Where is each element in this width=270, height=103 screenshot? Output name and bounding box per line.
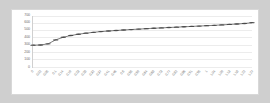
x-axis-tick-label: 1.13	[225, 70, 232, 77]
data-point-marker	[189, 25, 195, 26]
data-point-marker	[91, 31, 97, 32]
data-point-marker	[166, 26, 172, 27]
x-axis-tick-label: 0.59	[134, 70, 141, 77]
x-axis-tick-label: 0.28	[81, 70, 88, 77]
x-axis-tick-label: 1.27	[248, 70, 255, 77]
data-point-marker	[38, 44, 44, 45]
x-axis-tick-label: 0.19	[66, 70, 73, 77]
y-axis-tick-label: 100	[24, 58, 30, 62]
data-point-marker	[219, 24, 225, 25]
y-axis: 0100200300400500600700	[12, 16, 32, 68]
data-point-marker	[30, 44, 36, 45]
x-axis-tick-label: 0.32	[89, 70, 96, 77]
x-axis-tick-label: 0.14	[59, 70, 66, 77]
x-axis-tick-label: 0.23	[74, 70, 81, 77]
x-axis-tick-label: 0.77	[165, 70, 172, 77]
y-axis-tick-label: 600	[24, 21, 30, 25]
y-axis-tick-label: 300	[24, 43, 30, 47]
data-point-marker	[128, 28, 134, 29]
x-axis-tick-label: 1.04	[210, 70, 217, 77]
plot-region	[32, 16, 252, 68]
x-axis-tick-label: 0.41	[104, 70, 111, 77]
data-point-marker	[45, 43, 51, 44]
data-point-marker	[60, 36, 66, 37]
series-line	[33, 22, 252, 44]
data-point-marker	[53, 39, 59, 40]
plot-area	[32, 16, 252, 68]
data-point-marker	[68, 34, 74, 35]
x-axis: 00.020.050.10.140.190.230.280.320.370.41…	[32, 68, 252, 94]
data-point-marker	[226, 23, 232, 24]
x-axis-tick-label: 0.64	[142, 70, 149, 77]
x-axis-tick-label: 0.68	[150, 70, 157, 77]
x-axis-tick-label: 0.05	[43, 70, 50, 77]
x-axis-tick-label: 0.95	[195, 70, 202, 77]
x-axis-tick-label: 0.02	[36, 70, 43, 77]
data-point-marker	[234, 23, 240, 24]
data-point-marker	[143, 28, 149, 29]
data-point-marker	[159, 27, 165, 28]
x-axis-tick-label: 0.91	[187, 70, 194, 77]
x-axis-tick-label: 1	[205, 70, 209, 74]
data-point-marker	[151, 27, 157, 28]
data-point-marker	[113, 29, 119, 30]
y-axis-tick-label: 700	[24, 14, 30, 18]
data-point-marker	[211, 24, 217, 25]
data-point-marker	[136, 28, 142, 29]
data-point-marker	[242, 22, 248, 23]
x-axis-tick-label: 1.22	[241, 70, 248, 77]
data-point-marker	[106, 30, 112, 31]
y-axis-tick-label: 200	[24, 51, 30, 55]
x-axis-tick-label: 0.86	[180, 70, 187, 77]
data-point-marker	[75, 33, 81, 34]
data-point-marker	[181, 26, 187, 27]
x-axis-tick-label: 0.5	[120, 70, 125, 76]
data-point-marker	[174, 26, 180, 27]
x-axis-tick-label: 0	[31, 70, 35, 74]
data-point-marker	[98, 30, 104, 31]
data-point-marker	[196, 25, 202, 26]
x-axis-tick-label: 0.37	[96, 70, 103, 77]
y-axis-tick-label: 0	[28, 66, 30, 70]
x-axis-tick-label: 1.09	[218, 70, 225, 77]
y-axis-tick-label: 400	[24, 36, 30, 40]
x-axis-tick-label: 0.46	[112, 70, 119, 77]
x-axis-tick-label: 1.18	[233, 70, 240, 77]
x-axis-tick-label: 0.55	[127, 70, 134, 77]
line-series	[33, 16, 252, 67]
y-axis-tick-label: 500	[24, 29, 30, 33]
x-axis-tick-label: 0.82	[172, 70, 179, 77]
x-axis-tick-label: 0.73	[157, 70, 164, 77]
chart-container: 0100200300400500600700 00.020.050.10.140…	[11, 9, 259, 95]
data-point-marker	[83, 32, 89, 33]
data-point-marker	[249, 22, 255, 23]
data-point-marker	[121, 29, 127, 30]
data-point-marker	[204, 25, 210, 26]
